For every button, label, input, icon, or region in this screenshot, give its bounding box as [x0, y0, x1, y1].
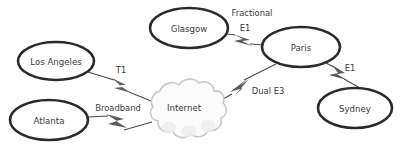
link-label-t1: T1: [115, 65, 126, 75]
node-label-los-angeles: Los Angeles: [30, 57, 82, 67]
node-label-internet: Internet: [167, 103, 202, 113]
network-diagram-canvas: Internet Los Angeles Atlanta Glasgow Par…: [0, 0, 409, 152]
node-label-paris: Paris: [291, 43, 312, 53]
link-line-atlanta-internet-b: [124, 122, 152, 130]
lightning-bolt-icon-glasgow-paris: [233, 34, 252, 46]
link-line-atlanta-internet-a: [88, 116, 108, 117]
node-glasgow[interactable]: Glasgow: [150, 8, 228, 48]
network-diagram: Internet Los Angeles Atlanta Glasgow Par…: [0, 0, 409, 152]
node-sydney[interactable]: Sydney: [318, 88, 392, 128]
lightning-bolt-icon-la-internet: [112, 78, 131, 93]
link-label-fractional-e1-line1: Fractional: [232, 8, 273, 18]
node-label-glasgow: Glasgow: [171, 24, 208, 34]
node-atlanta[interactable]: Atlanta: [10, 100, 88, 140]
link-line-paris-sydney-b: [344, 79, 360, 88]
node-internet[interactable]: Internet: [151, 79, 227, 137]
link-label-fractional-e1-line2: E1: [240, 23, 251, 33]
link-label-dual-e3: Dual E3: [252, 86, 285, 96]
link-line-internet-paris-b: [244, 64, 276, 80]
lightning-bolt-icon-internet-paris: [230, 79, 249, 95]
lightning-bolt-icon-atlanta-internet: [106, 114, 127, 128]
link-line-paris-sydney-a: [326, 63, 334, 67]
node-label-atlanta: Atlanta: [34, 116, 65, 126]
node-paris[interactable]: Paris: [262, 27, 340, 67]
node-label-sydney: Sydney: [339, 104, 371, 114]
link-label-broadband: Broadband: [95, 103, 141, 113]
link-line-la-internet-a: [88, 72, 114, 80]
node-los-angeles[interactable]: Los Angeles: [18, 42, 94, 80]
link-label-e1: E1: [345, 63, 356, 73]
link-line-glasgow-paris-a: [227, 34, 235, 35]
